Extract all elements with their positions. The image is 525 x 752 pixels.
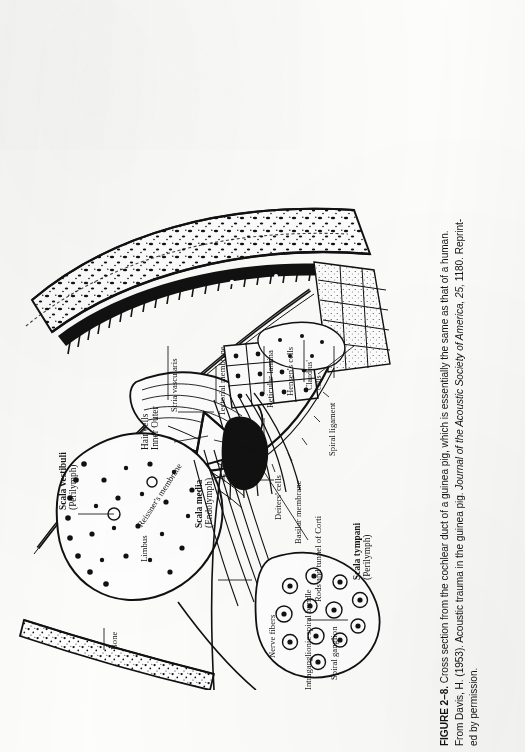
label-basilar-membrane-text: Basilar membrane bbox=[293, 480, 303, 544]
label-intraganglionic-spiral-bundle: Intraganglionic spiral bundle bbox=[304, 589, 314, 690]
label-scala-vestibuli-line1: Scala vestibuli bbox=[58, 452, 68, 510]
label-deiters-cells-text: Deiters' cells bbox=[273, 475, 283, 520]
label-limbus-text: Limbus bbox=[139, 535, 149, 562]
label-bone-text: Bone bbox=[109, 632, 119, 650]
caption-figure-number: FIGURE 2–8. bbox=[439, 686, 450, 746]
label-scala-media-line1: Scala media bbox=[194, 480, 204, 528]
caption-permission-text: ed by permission. bbox=[468, 668, 479, 746]
caption-line-1: FIGURE 2–8. Cross section from the cochl… bbox=[438, 74, 453, 746]
label-claudius-cells-line2: cells bbox=[315, 360, 324, 390]
label-nerve-fibers-text: Nerve fibers bbox=[267, 615, 277, 658]
label-limbus: Limbus bbox=[140, 535, 150, 562]
label-hair-cells-line2: Inner Outer bbox=[150, 406, 160, 450]
caption-page-and-reprint: 1180. Reprint- bbox=[454, 219, 465, 284]
figure-caption: FIGURE 2–8. Cross section from the cochl… bbox=[428, 0, 524, 752]
label-basilar-membrane: Basilar membrane bbox=[294, 480, 304, 544]
anatomical-drawing bbox=[18, 150, 418, 690]
figure-page: Scala vestibuli (Perilymph) Bone Reissne… bbox=[0, 0, 525, 752]
label-tectorial-membrane-text: Tectorial membrane bbox=[217, 346, 227, 416]
label-deiters-cells: Deiters' cells bbox=[274, 475, 284, 520]
label-stria-vascularis: Stria vascularis bbox=[170, 358, 180, 412]
label-spiral-ganglion: Spiral ganglion bbox=[330, 627, 340, 681]
label-reticular-lamina-text: Reticular lamina bbox=[265, 350, 275, 408]
caption-line-3: ed by permission. bbox=[467, 74, 482, 746]
label-reticular-lamina: Reticular lamina bbox=[266, 350, 276, 408]
caption-line-1-text: Cross section from the cochlear duct of … bbox=[439, 231, 450, 686]
label-spiral-ganglion-text: Spiral ganglion bbox=[329, 627, 339, 681]
label-scala-tympani-line2: (Perilymph) bbox=[362, 523, 372, 580]
label-spiral-ligament: Spiral ligament bbox=[328, 403, 338, 457]
label-claudius-cells: Claudius' cells bbox=[306, 360, 324, 390]
label-hensens-cells-text: Hensen's cells bbox=[285, 347, 295, 396]
caption-line-2: From Davis, H. (1953). Acoustic trauma i… bbox=[453, 74, 468, 746]
label-rods-and-tunnel-of-corti: Rods and tunnel of Corti bbox=[314, 516, 324, 602]
caption-source-prefix: From Davis, H. (1953). Acoustic trauma i… bbox=[454, 490, 465, 746]
label-stria-vascularis-text: Stria vascularis bbox=[169, 358, 179, 412]
cochlear-duct-illustration: Scala vestibuli (Perilymph) Bone Reissne… bbox=[18, 150, 418, 690]
label-hensens-cells: Hensen's cells bbox=[286, 347, 296, 396]
label-tectorial-membrane: Tectorial membrane bbox=[218, 346, 228, 416]
label-scala-media: Scala media (Endolymph) bbox=[194, 478, 215, 528]
label-hair-cells-line1: Hair cells bbox=[140, 414, 150, 450]
label-scala-vestibuli: Scala vestibuli (Perilymph) bbox=[58, 452, 79, 510]
label-scala-media-line2: (Endolymph) bbox=[204, 478, 214, 528]
label-scala-tympani: Scala tympani (Perilymph) bbox=[352, 523, 373, 580]
label-spiral-ligament-text: Spiral ligament bbox=[327, 403, 337, 457]
label-claudius-cells-line1: Claudius' bbox=[305, 360, 314, 390]
label-rods-and-tunnel-of-corti-text: Rods and tunnel of Corti bbox=[313, 516, 323, 602]
label-hair-cells: Hair cells Inner Outer bbox=[140, 406, 161, 450]
scan-grain bbox=[0, 0, 300, 150]
bone-lower-wall bbox=[20, 620, 214, 690]
caption-journal-title: Journal of the Acoustic Society of Ameri… bbox=[454, 284, 465, 490]
label-scala-vestibuli-line2: (Perilymph) bbox=[68, 452, 78, 510]
label-nerve-fibers: Nerve fibers bbox=[268, 615, 278, 658]
label-scala-tympani-line1: Scala tympani bbox=[352, 523, 362, 580]
label-intraganglionic-spiral-bundle-text: Intraganglionic spiral bundle bbox=[303, 589, 313, 690]
label-bone: Bone bbox=[110, 632, 120, 650]
